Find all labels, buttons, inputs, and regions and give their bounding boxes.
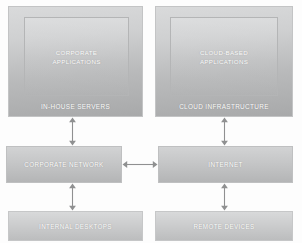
- node-internet[interactable]: INTERNET: [158, 146, 293, 183]
- remote-devices-label: REMOTE DEVICES: [193, 223, 254, 230]
- corporate-applications-label: CORPORATE APPLICATIONS: [52, 48, 100, 66]
- cloud-based-applications-label-line1: CLOUD-BASED: [200, 48, 248, 57]
- diagram-canvas: IN-HOUSE SERVERS CORPORATE APPLICATIONS …: [0, 0, 302, 243]
- node-cloud-based-applications[interactable]: CLOUD-BASED APPLICATIONS: [170, 17, 278, 96]
- node-remote-devices[interactable]: REMOTE DEVICES: [155, 211, 293, 241]
- internal-desktops-label: INTERNAL DESKTOPS: [39, 223, 112, 230]
- connector-internet-to-remote-devices: [218, 183, 231, 211]
- cloud-based-applications-label: CLOUD-BASED APPLICATIONS: [200, 48, 248, 66]
- connector-cloud-to-internet: [218, 117, 231, 146]
- corporate-applications-label-line1: CORPORATE: [52, 48, 100, 57]
- node-corporate-applications[interactable]: CORPORATE APPLICATIONS: [24, 17, 129, 96]
- connector-servers-to-corporate-network: [66, 117, 79, 146]
- connector-corporate-network-to-internet: [122, 158, 158, 171]
- internet-label: INTERNET: [208, 161, 242, 168]
- corporate-network-label: CORPORATE NETWORK: [24, 161, 103, 168]
- cloud-based-applications-label-line2: APPLICATIONS: [200, 57, 248, 66]
- connector-corporate-network-to-desktops: [66, 183, 79, 211]
- node-corporate-network[interactable]: CORPORATE NETWORK: [6, 146, 122, 183]
- corporate-applications-label-line2: APPLICATIONS: [52, 57, 100, 66]
- node-internal-desktops[interactable]: INTERNAL DESKTOPS: [8, 211, 143, 241]
- in-house-servers-label: IN-HOUSE SERVERS: [41, 103, 110, 116]
- cloud-infrastructure-label: CLOUD INFRASTRUCTURE: [179, 103, 269, 116]
